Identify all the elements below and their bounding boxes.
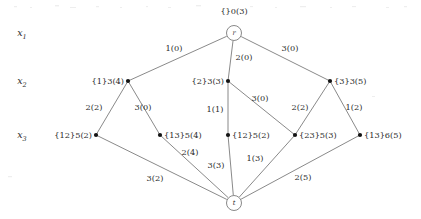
graph-edge — [228, 41, 233, 81]
edge-label: 2(0) — [236, 52, 253, 62]
row-label-subscript: 1 — [23, 33, 27, 41]
row-label: x2 — [17, 75, 27, 89]
graph-node — [126, 79, 130, 83]
node-label: {23}5(3) — [299, 130, 337, 140]
node-label: {12}5(2) — [232, 130, 270, 140]
graph-edge — [228, 135, 233, 195]
edge-label: 1(3) — [247, 153, 264, 163]
node-label: {13}6(5) — [364, 130, 402, 140]
row-label-subscript: 3 — [23, 135, 27, 143]
graph-node — [293, 133, 297, 137]
graph-node — [226, 79, 230, 83]
terminal-label-t: t — [233, 199, 236, 207]
graph-canvas: 1(0)2(0)3(0)2(2)3(0)1(1)3(0)2(2)1(2)3(2)… — [0, 0, 421, 219]
graph-edge — [239, 135, 295, 197]
edge-label: 2(5) — [295, 172, 312, 182]
graph-node — [358, 133, 362, 137]
row-label: x3 — [17, 129, 27, 143]
edge-label: 3(0) — [135, 102, 152, 112]
edge-label: 3(2) — [147, 173, 164, 183]
root-caption: {}0(3) — [220, 6, 247, 16]
edge-label: 1(1) — [207, 104, 224, 114]
edge-label: 2(2) — [292, 102, 309, 112]
graph-node — [226, 133, 230, 137]
edge-label: 3(0) — [282, 43, 299, 53]
node-label: {12}5(2) — [54, 130, 92, 140]
edge-label: 3(0) — [252, 93, 269, 103]
node-label: {13}5(4) — [164, 130, 202, 140]
row-label-subscript: 2 — [22, 81, 27, 89]
graph-edge — [228, 81, 295, 135]
graph-node — [94, 133, 98, 137]
edge-label: 2(4) — [182, 147, 199, 157]
edge-label: 2(2) — [86, 102, 103, 112]
node-label: {1}3(4) — [92, 76, 124, 86]
node-label: {3}3(5) — [334, 76, 366, 86]
node-label: {2}3(3) — [192, 76, 224, 86]
edge-label: 1(0) — [166, 43, 183, 53]
graph-edge — [241, 135, 360, 199]
edges-layer — [96, 36, 360, 199]
graph-node — [328, 79, 332, 83]
edge-label: 3(3) — [208, 160, 225, 170]
row-label: x1 — [17, 27, 27, 41]
edge-label: 1(2) — [346, 102, 363, 112]
graph-diagram: 1(0)2(0)3(0)2(2)3(0)1(1)3(0)2(2)1(2)3(2)… — [0, 0, 421, 219]
graph-node — [158, 133, 162, 137]
